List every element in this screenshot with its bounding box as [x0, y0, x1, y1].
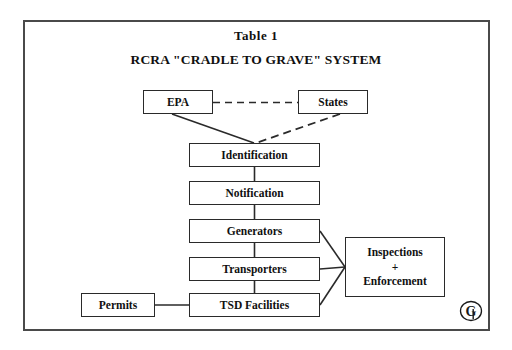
inspections-line-1: Inspections: [367, 245, 423, 259]
g-monogram-logo: G: [459, 299, 483, 323]
document-page: Table 1 RCRA "CRADLE TO GRAVE" SYSTEM St…: [0, 0, 512, 350]
edge-states-identification: [256, 114, 340, 143]
node-states: States: [298, 90, 368, 114]
edge-tsd-inspections: [320, 267, 345, 305]
edge-transporters-inspections: [320, 267, 345, 269]
node-permits: Permits: [81, 293, 155, 317]
node-identification: Identification: [189, 143, 320, 167]
inspections-line-3: Enforcement: [363, 274, 427, 288]
node-notification: Notification: [189, 181, 320, 205]
svg-text:G: G: [466, 304, 477, 319]
node-epa: EPA: [143, 90, 213, 114]
inspections-plus-sign: +: [392, 260, 399, 274]
node-generators: Generators: [189, 219, 320, 243]
node-tsd-facilities: TSD Facilities: [189, 293, 320, 317]
node-inspections-enforcement: Inspections + Enforcement: [345, 237, 445, 297]
node-transporters: Transporters: [189, 257, 320, 281]
edge-epa-identification: [172, 114, 254, 143]
edge-generators-inspections: [320, 231, 345, 267]
